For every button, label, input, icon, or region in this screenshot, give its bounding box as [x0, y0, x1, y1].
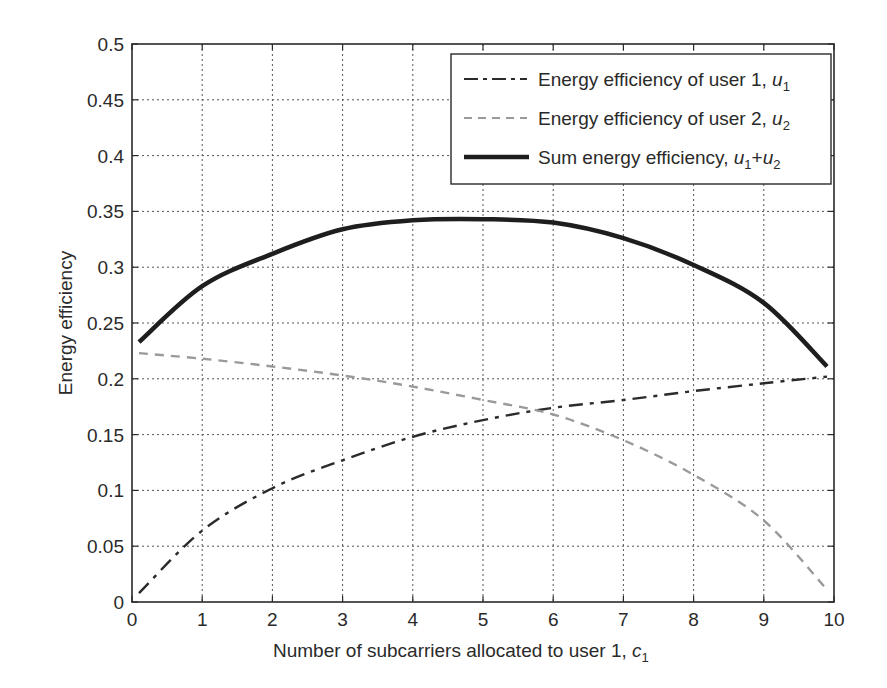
- x-tick-label: 8: [688, 609, 699, 630]
- x-tick-label: 2: [267, 609, 278, 630]
- y-tick-label: 0.35: [87, 201, 124, 222]
- x-tick-label: 4: [408, 609, 419, 630]
- y-tick-label: 0.4: [98, 146, 125, 167]
- y-axis-label: Energy efficiency: [55, 250, 76, 395]
- y-tick-label: 0.2: [98, 369, 124, 390]
- x-tick-label: 7: [618, 609, 629, 630]
- y-tick-label: 0: [113, 592, 124, 613]
- legend: Energy efficiency of user 1, u1 Energy e…: [451, 54, 831, 184]
- x-tick-label: 9: [759, 609, 770, 630]
- y-tick-label: 0.05: [87, 536, 124, 557]
- y-tick-label: 0.25: [87, 313, 124, 334]
- x-tick-label: 1: [197, 609, 208, 630]
- x-tick-label: 5: [478, 609, 489, 630]
- y-tick-label: 0.15: [87, 425, 124, 446]
- x-axis-label: Number of subcarriers allocated to user …: [273, 640, 649, 665]
- y-tick-labels: 00.050.10.150.20.250.30.350.40.450.5: [87, 34, 124, 613]
- x-tick-label: 0: [127, 609, 138, 630]
- y-tick-label: 0.5: [98, 34, 124, 55]
- x-tick-label: 3: [337, 609, 348, 630]
- x-tick-label: 10: [823, 609, 844, 630]
- y-tick-label: 0.45: [87, 90, 124, 111]
- x-tick-label: 6: [548, 609, 559, 630]
- x-tick-labels: 012345678910: [127, 609, 845, 630]
- energy-efficiency-chart: 012345678910 00.050.10.150.20.250.30.350…: [0, 0, 887, 688]
- y-tick-label: 0.1: [98, 480, 124, 501]
- y-tick-label: 0.3: [98, 257, 124, 278]
